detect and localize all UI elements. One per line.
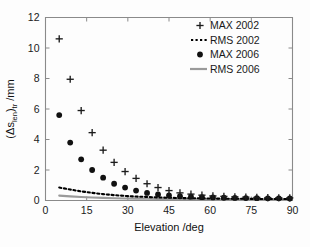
x-tick-label: 60 <box>204 204 216 216</box>
y-tick-label: 8 <box>34 72 40 84</box>
elevation-error-scatter-chart: 024681012 0153045607590 Elevation /deg (… <box>0 0 310 247</box>
data-marker-circle <box>144 190 150 196</box>
y-axis-title-suffix: /mm <box>4 79 16 103</box>
data-marker-circle <box>56 112 62 118</box>
legend-label: RMS 2002 <box>210 34 260 46</box>
y-tick-label: 6 <box>34 103 40 115</box>
y-tick-label: 2 <box>34 164 40 176</box>
series-max-2006 <box>56 112 292 201</box>
y-tick-label: 12 <box>28 11 40 23</box>
x-axis-title: Elevation /deg <box>134 221 204 233</box>
legend-label: MAX 2006 <box>210 48 259 60</box>
y-tick-label: 10 <box>28 42 40 54</box>
data-marker-circle <box>111 181 117 187</box>
y-axis-title-prefix: (Δs <box>4 122 16 139</box>
x-tick-label: 0 <box>43 204 49 216</box>
data-marker-circle <box>78 156 84 162</box>
x-tick-label: 45 <box>163 204 175 216</box>
legend-label: MAX 2002 <box>210 19 259 31</box>
legend-circle-icon <box>197 52 203 58</box>
x-tick-label: 75 <box>245 204 257 216</box>
y-tick-label: 0 <box>34 194 40 206</box>
svg-text:(Δslen)tr /mm: (Δslen)tr /mm <box>4 79 19 138</box>
data-marker-circle <box>155 192 161 198</box>
legend-item: RMS 2002 <box>191 34 260 46</box>
data-marker-circle <box>67 140 73 146</box>
y-tick-label: 4 <box>34 133 40 145</box>
y-axis-tick-labels: 024681012 <box>28 11 40 206</box>
x-axis-tick-labels: 0153045607590 <box>43 204 299 216</box>
legend-item: MAX 2002 <box>196 19 259 31</box>
x-tick-label: 30 <box>122 204 134 216</box>
legend-label: RMS 2006 <box>210 63 260 75</box>
x-tick-label: 15 <box>81 204 93 216</box>
chart-figure: 024681012 0153045607590 Elevation /deg (… <box>0 0 310 247</box>
series-max-2002 <box>56 35 294 201</box>
legend-item: RMS 2006 <box>190 63 260 75</box>
data-marker-circle <box>100 175 106 181</box>
chart-legend: MAX 2002RMS 2002MAX 2006RMS 2006 <box>190 19 260 75</box>
y-axis-title-sub1: len <box>10 112 19 122</box>
data-marker-circle <box>122 185 128 191</box>
data-marker-circle <box>133 188 139 194</box>
y-axis-title: (Δslen)tr /mm <box>4 79 19 138</box>
data-marker-circle <box>89 167 95 173</box>
legend-item: MAX 2006 <box>197 48 259 60</box>
x-tick-label: 90 <box>287 204 299 216</box>
